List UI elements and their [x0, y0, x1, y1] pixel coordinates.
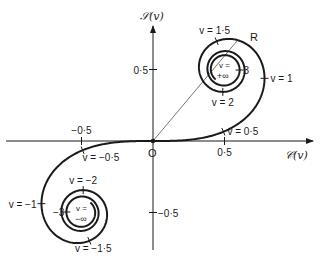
chord-end-label: R [250, 31, 258, 43]
diagram-canvas: −0·50·50·5−0·5 v = 0·5v = 1v = 1·5v = 23… [0, 0, 321, 266]
x-tick-label: 0·5 [217, 147, 232, 158]
lower-limit-v: v = [76, 204, 87, 213]
upper-limit-label: v = +∞ [217, 61, 230, 81]
v-marker-label: v = 0·5 [227, 126, 258, 137]
upper-limit-v: v = [219, 61, 230, 70]
v-marker-label: v = −2 [69, 175, 97, 186]
v-marker-label: v = 1·5 [199, 25, 230, 36]
lower-limit-label: v = −∞ [75, 204, 87, 224]
origin-point [151, 139, 156, 144]
y-tick-label: 0·5 [134, 65, 149, 76]
x-axis-label: 𝒞(v) [285, 149, 308, 162]
v-marker-label: 3 [244, 65, 250, 76]
v-marker-label: v = 2 [212, 97, 234, 108]
origin-label: O [148, 147, 157, 159]
v-marker-label: v = 1 [271, 73, 293, 84]
v-marker-label: v = −0·5 [83, 152, 120, 163]
y-axis-label: 𝒮(v) [140, 10, 164, 23]
lower-limit-infinity: −∞ [75, 214, 87, 224]
upper-limit-infinity: +∞ [217, 71, 229, 81]
v-markers: v = 0·5v = 1v = 1·5v = 23v = −0·5v = −1v… [9, 25, 293, 253]
v-marker-label: −3 [53, 207, 65, 218]
y-tick-label: −0·5 [158, 208, 179, 219]
x-tick-label: −0·5 [71, 125, 92, 136]
cornu-spiral-diagram: −0·50·50·5−0·5 v = 0·5v = 1v = 1·5v = 23… [0, 0, 321, 266]
v-marker-label: v = −1 [9, 199, 37, 210]
v-marker-label: v = −1·5 [75, 243, 112, 254]
